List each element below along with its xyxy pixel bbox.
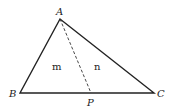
triangle-diagram: A B C P m n bbox=[0, 0, 173, 109]
region-label-m: m bbox=[52, 61, 62, 72]
dashed-segment-ap bbox=[60, 19, 91, 93]
vertex-label-c: C bbox=[157, 88, 165, 99]
vertex-label-p: P bbox=[86, 97, 94, 108]
triangle-abc bbox=[20, 19, 154, 93]
region-label-n: n bbox=[94, 61, 101, 72]
vertex-label-a: A bbox=[55, 6, 63, 17]
vertex-label-b: B bbox=[8, 88, 16, 99]
